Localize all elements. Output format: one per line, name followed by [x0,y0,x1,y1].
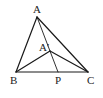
segment-A1B [16,51,50,72]
label-B: B [10,74,17,86]
label-A: A [33,3,41,15]
segment-AB [16,17,37,72]
triangle-diagram: A A′ B P C [0,0,103,98]
segment-A1C [50,51,88,72]
label-P: P [55,74,61,86]
label-A-prime: A′ [39,41,49,53]
label-C: C [87,74,94,86]
